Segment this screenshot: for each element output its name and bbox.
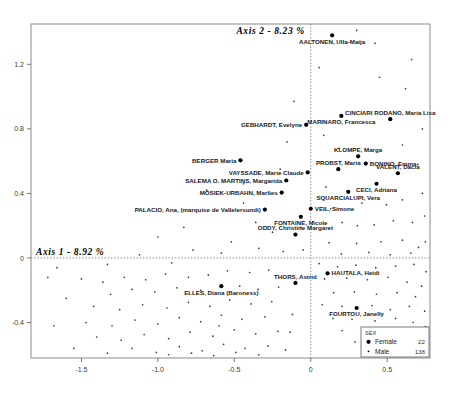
data-point-male	[258, 247, 260, 249]
data-point-female[interactable]	[309, 207, 313, 211]
data-point-male	[361, 202, 363, 204]
data-point-male	[402, 239, 404, 241]
data-point-label: ELLES, Diana (Baroness)	[184, 289, 258, 296]
data-point-male	[120, 339, 122, 341]
data-point-male	[357, 225, 359, 227]
x-tick-label: -1.5	[75, 366, 87, 373]
data-point-male	[293, 101, 295, 103]
data-point-male	[243, 202, 245, 204]
data-point-female[interactable]	[356, 154, 360, 158]
data-point-male	[76, 254, 78, 256]
data-point-male	[368, 251, 370, 253]
data-point-male	[374, 43, 376, 45]
x-tick-label: 0	[309, 366, 313, 373]
data-point-male	[325, 186, 327, 188]
axis1-title: Axis 1 - 8.92 %	[35, 247, 104, 257]
data-point-label: PALACIO, Ana, (marquise de Vallelersundi…	[135, 206, 261, 213]
data-point-male	[139, 254, 141, 256]
data-point-male	[220, 314, 222, 316]
data-point-male	[119, 309, 121, 311]
data-point-male	[272, 231, 274, 233]
data-point-female[interactable]	[304, 123, 308, 127]
data-point-male	[107, 352, 109, 354]
data-point-male	[178, 346, 180, 348]
data-point-female[interactable]	[238, 158, 242, 162]
data-point-male	[318, 263, 320, 265]
y-tick-label: -0.4	[12, 319, 24, 326]
data-point-male	[188, 301, 190, 303]
data-point-male	[255, 333, 257, 335]
data-point-male	[366, 279, 368, 281]
data-point-male	[154, 291, 156, 293]
y-tick-label: 0	[20, 255, 24, 262]
data-point-male	[412, 322, 414, 324]
data-point-male	[192, 249, 194, 251]
data-point-male	[282, 251, 284, 253]
data-point-female[interactable]	[280, 191, 284, 195]
data-point-male	[200, 321, 202, 323]
data-point-male	[324, 278, 326, 280]
data-point-male	[201, 350, 203, 352]
data-point-male	[285, 349, 287, 351]
data-point-male	[380, 241, 382, 243]
data-point-male	[235, 352, 237, 354]
data-point-female[interactable]	[306, 170, 310, 174]
data-point-female[interactable]	[263, 207, 267, 211]
data-point-male	[302, 249, 304, 251]
data-point-male	[406, 281, 408, 283]
legend-entry-count: 138	[415, 348, 426, 355]
data-point-female[interactable]	[293, 232, 297, 236]
data-point-male	[351, 318, 353, 320]
data-point-male	[278, 286, 280, 288]
data-point-label: SALEMA O. MARTINS, Margarida	[185, 177, 283, 184]
data-point-male	[402, 144, 404, 146]
data-point-male	[354, 341, 356, 343]
data-point-male	[171, 262, 173, 264]
data-point-female[interactable]	[396, 171, 400, 175]
data-point-female[interactable]	[364, 161, 368, 165]
data-point-female[interactable]	[336, 167, 340, 171]
series-female-points: AALTONEN, Ulla-MaijaCINCIARI RODANO, Mar…	[135, 33, 436, 317]
data-point-label: AALTONEN, Ulla-Maija	[299, 38, 366, 45]
data-point-male	[341, 306, 343, 308]
data-point-male	[374, 320, 376, 322]
data-point-male	[395, 318, 397, 320]
data-point-male	[371, 305, 373, 307]
data-point-male	[412, 222, 414, 224]
data-point-male	[267, 345, 269, 347]
legend-entry-count: 22	[418, 338, 425, 345]
data-point-male	[392, 220, 394, 222]
data-point-male	[165, 273, 167, 275]
data-point-male	[418, 247, 420, 249]
data-point-male	[47, 276, 49, 278]
data-point-male	[176, 287, 178, 289]
data-point-female[interactable]	[325, 271, 329, 275]
data-point-male	[425, 241, 427, 243]
data-point-label: FOURTOU, Janelly	[329, 310, 384, 317]
data-point-male	[131, 289, 133, 291]
data-point-male	[56, 267, 58, 269]
data-point-female[interactable]	[284, 178, 288, 182]
data-point-label: GEBHARDT, Evelyne	[241, 121, 303, 128]
data-point-label: MOSIEK-URBAHN, Marlies	[200, 189, 279, 196]
data-point-male	[178, 317, 180, 319]
data-point-male	[131, 347, 133, 349]
data-point-male	[413, 264, 415, 266]
data-point-label: KLOMPE, Marga	[334, 146, 383, 153]
data-point-male	[156, 352, 158, 354]
data-point-male	[425, 271, 427, 273]
data-point-male	[355, 264, 357, 266]
data-point-male	[289, 331, 291, 333]
data-point-male	[410, 252, 412, 254]
data-point-male	[65, 297, 67, 299]
data-point-male	[102, 281, 104, 283]
data-point-male	[227, 270, 229, 272]
data-point-male	[188, 276, 190, 278]
data-point-female[interactable]	[293, 281, 297, 285]
data-point-male	[239, 285, 241, 287]
data-point-male	[123, 276, 125, 278]
data-point-male	[166, 307, 168, 309]
data-point-female[interactable]	[388, 117, 392, 121]
data-point-male	[277, 331, 279, 333]
legend-entry-label: Male	[375, 348, 390, 355]
